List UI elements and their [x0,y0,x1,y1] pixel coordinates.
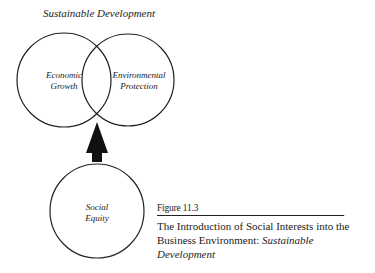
economic-label-2: Growth [50,81,78,91]
sustainable-development-diagram: Sustainable Development Economic Growth … [0,0,375,273]
social-label-1: Social [86,202,109,212]
economic-label-1: Economic [45,70,82,80]
arrow-up-icon [86,122,108,162]
figure-number: Figure 11.3 [157,202,344,216]
environmental-label-1: Environmental [111,70,166,80]
environmental-label-2: Protection [119,81,158,91]
figure-description: The Introduction of Social Interests int… [157,219,365,261]
figure-caption: Figure 11.3 The Introduction of Social I… [157,202,365,261]
economic-growth-circle [17,33,111,127]
social-label-2: Equity [84,213,109,223]
environmental-protection-circle [82,34,174,126]
caption-text: The Introduction of Social Interests int… [157,220,349,246]
